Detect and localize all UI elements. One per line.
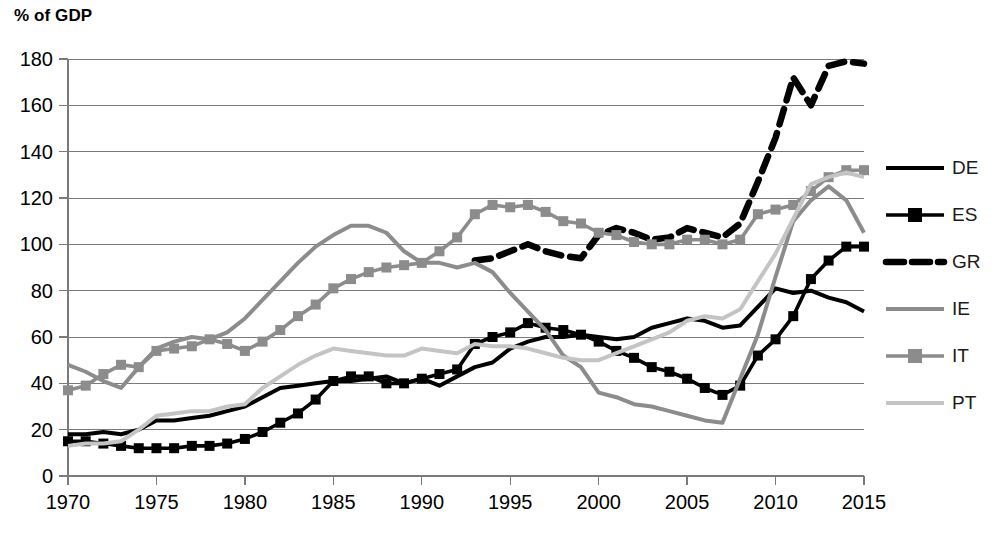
series-marker-ES <box>205 441 215 451</box>
series-marker-IT <box>700 235 710 245</box>
y-axis-label-140: 140 <box>20 141 53 163</box>
series-marker-IT <box>116 360 126 370</box>
series-marker-IT <box>682 235 692 245</box>
x-axis-label-2005: 2005 <box>665 491 710 513</box>
x-axis-label-2010: 2010 <box>753 491 798 513</box>
series-marker-IT <box>470 209 480 219</box>
chart-legend: DEESGRIEITPT <box>886 157 981 413</box>
series-marker-ES <box>222 439 232 449</box>
x-axis-label-2015: 2015 <box>842 491 887 513</box>
series-marker-IT <box>735 235 745 245</box>
x-axis-label-1970: 1970 <box>46 491 91 513</box>
series-marker-IT <box>558 216 568 226</box>
series-marker-ES <box>364 371 374 381</box>
series-marker-IT <box>98 369 108 379</box>
series-marker-ES <box>753 351 763 361</box>
legend-label-IE: IE <box>952 298 970 319</box>
series-marker-IT <box>771 205 781 215</box>
legend-item-ES[interactable]: ES <box>886 204 977 225</box>
series-marker-IT <box>169 344 179 354</box>
series-marker-ES <box>700 383 710 393</box>
series-marker-ES <box>399 378 409 388</box>
legend-label-PT: PT <box>952 392 977 413</box>
line-chart-plot: 0204060801001201401601801970197519801985… <box>0 0 996 540</box>
series-marker-IT <box>364 267 374 277</box>
series-marker-ES <box>381 378 391 388</box>
legend-item-IT[interactable]: IT <box>886 345 969 366</box>
series-marker-IT <box>187 341 197 351</box>
series-marker-IT <box>717 239 727 249</box>
series-marker-IT <box>647 239 657 249</box>
gridlines-group: 020406080100120140160180 <box>20 48 864 487</box>
x-axis-label-1980: 1980 <box>223 491 268 513</box>
series-marker-IT <box>293 311 303 321</box>
series-marker-ES <box>806 274 816 284</box>
series-marker-ES <box>258 427 268 437</box>
series-marker-IT <box>611 230 621 240</box>
x-axis-group: 1970197519801985199019952000200520102015 <box>46 476 887 513</box>
series-marker-IT <box>434 246 444 256</box>
legend-item-GR[interactable]: GR <box>886 251 981 272</box>
x-axis-label-1975: 1975 <box>134 491 179 513</box>
series-marker-IT <box>594 228 604 238</box>
series-marker-IT <box>258 337 268 347</box>
series-marker-IT <box>222 339 232 349</box>
series-marker-IT <box>381 263 391 273</box>
x-axis-label-2000: 2000 <box>576 491 621 513</box>
legend-item-IE[interactable]: IE <box>886 298 970 319</box>
series-marker-ES <box>346 371 356 381</box>
x-axis-label-1985: 1985 <box>311 491 356 513</box>
series-marker-IT <box>81 381 91 391</box>
series-marker-IT <box>240 346 250 356</box>
legend-label-DE: DE <box>952 157 978 178</box>
x-axis-label-1995: 1995 <box>488 491 533 513</box>
series-marker-ES <box>505 327 515 337</box>
y-axis-label-20: 20 <box>31 419 53 441</box>
series-line-GR <box>475 61 864 260</box>
series-marker-IT <box>205 334 215 344</box>
series-marker-ES <box>434 369 444 379</box>
series-marker-ES <box>576 330 586 340</box>
series-marker-ES <box>328 376 338 386</box>
chart-container: % of GDP 0204060801001201401601801970197… <box>0 0 996 540</box>
legend-label-GR: GR <box>952 251 981 272</box>
series-marker-ES <box>293 408 303 418</box>
series-marker-ES <box>151 443 161 453</box>
legend-marker-IT <box>908 349 922 363</box>
y-axis-label-160: 160 <box>20 94 53 116</box>
series-marker-ES <box>788 311 798 321</box>
series-marker-ES <box>169 443 179 453</box>
series-marker-ES <box>417 374 427 384</box>
series-marker-ES <box>859 242 869 252</box>
series-marker-ES <box>682 374 692 384</box>
y-axis-label-40: 40 <box>31 372 53 394</box>
y-axis-label-180: 180 <box>20 48 53 70</box>
series-marker-IT <box>399 260 409 270</box>
series-marker-ES <box>240 434 250 444</box>
y-axis-label-120: 120 <box>20 187 53 209</box>
series-marker-IT <box>505 202 515 212</box>
series-marker-IT <box>63 385 73 395</box>
legend-item-DE[interactable]: DE <box>886 157 978 178</box>
series-marker-ES <box>134 443 144 453</box>
y-axis-label-80: 80 <box>31 280 53 302</box>
legend-label-ES: ES <box>952 204 977 225</box>
series-marker-IT <box>541 207 551 217</box>
series-marker-ES <box>594 337 604 347</box>
series-GR <box>475 61 864 260</box>
x-axis-label-1990: 1990 <box>400 491 445 513</box>
legend-item-PT[interactable]: PT <box>886 392 977 413</box>
series-group <box>63 61 869 453</box>
series-marker-ES <box>311 395 321 405</box>
series-marker-ES <box>647 362 657 372</box>
series-marker-IT <box>859 165 869 175</box>
series-marker-ES <box>664 367 674 377</box>
y-axis-label-60: 60 <box>31 326 53 348</box>
series-marker-IT <box>346 274 356 284</box>
series-marker-IT <box>629 237 639 247</box>
y-axis-label-100: 100 <box>20 233 53 255</box>
legend-label-IT: IT <box>952 345 969 366</box>
series-marker-IT <box>576 218 586 228</box>
series-marker-IT <box>328 283 338 293</box>
series-marker-ES <box>452 364 462 374</box>
